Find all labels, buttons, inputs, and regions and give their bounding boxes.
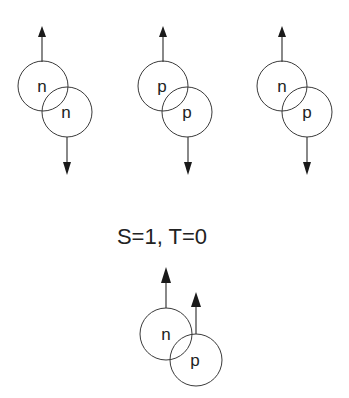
quantum-numbers-caption: S=1, T=0: [117, 224, 207, 249]
nucleon-label: p: [302, 103, 311, 122]
pair-diagram-np: n p: [257, 26, 332, 175]
pair-diagram-pp: p p: [138, 26, 212, 175]
nucleon-label: p: [182, 103, 191, 122]
spin-down-arrow-icon: [184, 162, 192, 175]
pair-diagram-nn: n n: [18, 26, 92, 175]
spin-down-arrow-icon: [63, 162, 71, 175]
nucleon-label: p: [190, 351, 199, 370]
nucleon-label: n: [277, 77, 286, 96]
spin-up-arrow-icon: [191, 292, 201, 307]
spin-up-arrow-icon: [278, 26, 286, 37]
nucleon-pair-figure: n n p p n p S=1, T=0 n p: [0, 0, 349, 398]
spin-up-arrow-icon: [159, 26, 167, 37]
nucleon-label: n: [61, 103, 70, 122]
spin-down-arrow-icon: [303, 162, 311, 175]
spin-up-arrow-icon: [38, 26, 46, 37]
deuteron-diagram: n p: [140, 267, 222, 386]
nucleon-label: n: [161, 325, 170, 344]
nucleon-label: p: [157, 77, 166, 96]
spin-up-arrow-icon: [161, 267, 171, 283]
nucleon-label: n: [37, 77, 46, 96]
